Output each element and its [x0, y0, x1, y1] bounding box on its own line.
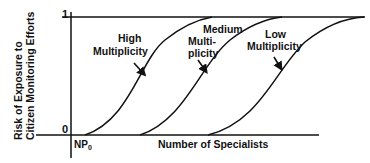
y-tick-1: 1 — [62, 8, 68, 20]
label-low-line2: Multiplicity — [247, 40, 302, 52]
x-tick-np0: NP0 — [74, 139, 92, 151]
label-high-line1: High — [118, 32, 141, 44]
y-axis-title-line1: Risk of Exposure to — [12, 41, 24, 140]
y-axis-title-line2: Citizen Monitoring Efforts — [24, 12, 36, 140]
label-medium-line1: Medium — [203, 23, 243, 35]
arrow-low — [274, 57, 280, 67]
label-medium-line3: plicity — [188, 47, 219, 59]
label-low-line1: Low — [265, 28, 287, 40]
arrow-high — [134, 63, 143, 73]
sigmoid-chart: 1 0 NP0 Number of Specialists Risk of Ex… — [0, 0, 370, 163]
arrow-medium — [198, 60, 205, 70]
label-high-line2: Multiplicity — [93, 45, 148, 57]
y-tick-0: 0 — [62, 123, 68, 135]
x-axis-title: Number of Specialists — [158, 138, 268, 150]
label-medium-line2: Multi- — [188, 35, 216, 47]
